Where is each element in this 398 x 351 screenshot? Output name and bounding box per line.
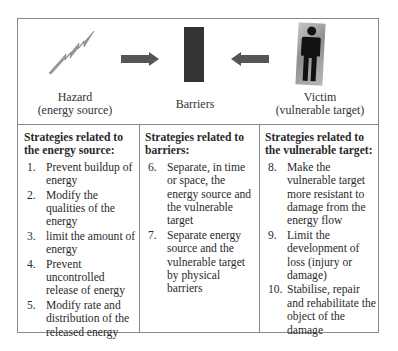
item-text: Modify the qualities of the energy (46, 189, 137, 229)
item-text: Limit the development of loss (injury or… (287, 229, 377, 283)
item-text: Stabilise, repair and rehabilitate the o… (287, 283, 377, 337)
list-item: 7.Separate energy source and the vulnera… (145, 229, 257, 296)
item-text: Modify rate and distribution of the rele… (46, 299, 137, 339)
column-divider (139, 124, 140, 332)
arrow-right-icon (121, 52, 159, 66)
arrow-left-icon (231, 52, 269, 66)
item-number: 1. (24, 161, 46, 188)
list-item: 1.Prevent buildup of energy (24, 161, 137, 188)
item-text: Separate, in time or space, the energy s… (167, 161, 257, 228)
energy-flow-panel: Hazard (energy source) Barriers Victim (… (18, 19, 378, 124)
item-number: 8. (265, 161, 287, 228)
item-text: Separate energy source and the vulnerabl… (167, 229, 257, 296)
item-number: 10. (265, 283, 287, 337)
column-title: Strategies related to the vulnerable tar… (265, 131, 377, 158)
hazard-label: Hazard (energy source) (30, 91, 120, 117)
list-item: 8.Make the vulnerable target more resist… (265, 161, 377, 228)
strategy-list: 1.Prevent buildup of energy 2.Modify the… (24, 161, 137, 339)
item-number: 9. (265, 229, 287, 283)
item-number: 5. (24, 299, 46, 339)
list-item: 6.Separate, in time or space, the energy… (145, 161, 257, 228)
column-title: Strategies related to the energy source: (24, 131, 137, 158)
item-text: Make the vulnerable target more resistan… (287, 161, 377, 228)
vulnerable-target-strategies: Strategies related to the vulnerable tar… (265, 131, 377, 338)
lightning-bolt-icon (46, 27, 96, 77)
column-divider (259, 124, 260, 332)
item-number: 4. (24, 258, 46, 298)
list-item: 9.Limit the development of loss (injury … (265, 229, 377, 283)
strategy-list: 8.Make the vulnerable target more resist… (265, 161, 377, 337)
list-item: 4.Prevent uncontrolled release of energy (24, 258, 137, 298)
item-text: limit the amount of energy (46, 230, 137, 257)
barrier-strategies: Strategies related to barriers: 6.Separa… (145, 131, 257, 297)
column-title: Strategies related to barriers: (145, 131, 257, 158)
victim-subtitle: (vulnerable target) (265, 104, 375, 117)
horizontal-divider (18, 124, 378, 125)
item-number: 6. (145, 161, 167, 228)
person-icon (295, 22, 325, 85)
diagram-frame: Hazard (energy source) Barriers Victim (… (17, 18, 379, 333)
item-text: Prevent buildup of energy (46, 161, 137, 188)
barriers-label: Barriers (160, 98, 230, 111)
barrier-block-icon (184, 27, 204, 82)
item-text: Prevent uncontrolled release of energy (46, 258, 137, 298)
energy-source-strategies: Strategies related to the energy source:… (24, 131, 137, 340)
item-number: 7. (145, 229, 167, 296)
item-number: 2. (24, 189, 46, 229)
list-item: 10.Stabilise, repair and rehabilitate th… (265, 283, 377, 337)
victim-label: Victim (vulnerable target) (265, 91, 375, 117)
strategy-list: 6.Separate, in time or space, the energy… (145, 161, 257, 296)
item-number: 3. (24, 230, 46, 257)
list-item: 5.Modify rate and distribution of the re… (24, 299, 137, 339)
list-item: 2.Modify the qualities of the energy (24, 189, 137, 229)
list-item: 3.limit the amount of energy (24, 230, 137, 257)
hazard-subtitle: (energy source) (30, 104, 120, 117)
